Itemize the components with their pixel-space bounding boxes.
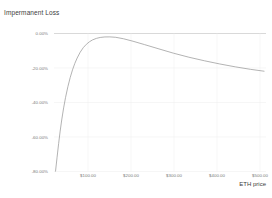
y-tick-label-2: -40.00% <box>20 100 48 105</box>
x-tick-label-0: $100.00 <box>68 173 108 178</box>
x-axis-title: ETH price <box>239 181 266 187</box>
x-tick-label-1: $200.00 <box>111 173 151 178</box>
y-tick-label-0: 0.00% <box>20 31 48 36</box>
x-tick-label-2: $300.00 <box>154 173 194 178</box>
gridlines-horizontal <box>54 34 266 172</box>
x-tick-label-3: $400.00 <box>197 173 237 178</box>
y-tick-label-3: -60.00% <box>20 135 48 140</box>
y-tick-label-4: -80.00% <box>20 169 48 174</box>
x-tick-label-4: $500.00 <box>240 173 272 178</box>
y-tick-label-1: -20.00% <box>20 66 48 71</box>
impermanent-loss-curve <box>56 37 265 171</box>
impermanent-loss-chart: Impermanent Loss 0.00% -20.00% -40.00% -… <box>0 0 272 198</box>
